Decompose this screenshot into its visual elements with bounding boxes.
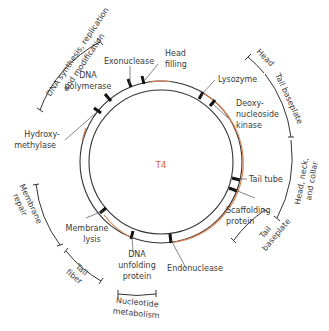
marker-head-filling xyxy=(142,76,144,84)
marker-endonuclease xyxy=(170,234,171,243)
t4-genome-map: T4 Exonuclease Head filling DNA polymera… xyxy=(0,0,329,331)
label-dna-unfolding-1: DNA xyxy=(128,250,146,259)
label-scaffolding-1: Scaffolding xyxy=(226,206,270,215)
label-head-filling-2: filling xyxy=(165,60,187,69)
label-deoxy-3: kinase xyxy=(236,121,262,130)
label-head-filling-1: Head xyxy=(165,49,186,58)
label-deoxy-1: Deoxy- xyxy=(236,99,264,108)
label-deoxy-2: nucleoside xyxy=(236,110,279,119)
region-head-neck-collar: Head, neck, and collar xyxy=(293,157,320,207)
marker-membrane-lysis xyxy=(100,208,106,213)
label-hydroxy-1: Hydroxy- xyxy=(24,130,60,139)
region-membrane-repair: Membrane repair xyxy=(8,183,43,230)
label-dna-unfolding-2: unfolding xyxy=(118,261,156,270)
label-hydroxy-2: methylase xyxy=(14,141,56,150)
marker-dna-polymerase xyxy=(105,94,111,101)
region-tail-baseplate-bottom: Tail baseplate xyxy=(253,210,293,252)
label-membrane-lysis-2: lysis xyxy=(83,235,101,244)
region-head: Head xyxy=(255,47,276,68)
label-dna-unfolding-3: protein xyxy=(123,272,151,281)
label-scaffolding-2: protein xyxy=(226,217,254,226)
center-label: T4 xyxy=(154,160,166,170)
region-tail-fiber: Tail fiber xyxy=(64,260,91,287)
label-exonuclease: Exonuclease xyxy=(104,57,154,66)
label-membrane-lysis-1: Membrane xyxy=(66,224,109,233)
bracket-nucleotide-metabolism xyxy=(118,294,156,295)
label-tail-tube: Tail tube xyxy=(248,175,283,184)
region-nucleotide-metabolism: Nucleotide metabolism xyxy=(112,296,161,321)
accent-arc-head-filling xyxy=(150,81,170,82)
marker-exonuclease xyxy=(128,79,131,87)
label-endonuclease: Endonuclease xyxy=(167,264,223,273)
label-lysozyme: Lysozyme xyxy=(218,75,257,84)
